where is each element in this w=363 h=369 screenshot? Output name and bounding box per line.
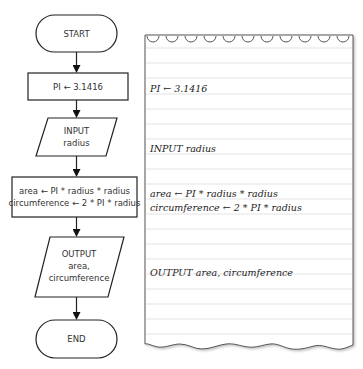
flowchart-and-pseudocode: START PI ← 3.1416 INPUT radius area ← PI… [0,0,363,369]
pseudocode-line-2: INPUT radius [149,143,216,154]
notepad: PI ← 3.1416 INPUT radius area ← PI * rad… [145,35,353,349]
process-label-line1: area ← PI * radius * radius [19,186,131,196]
assign-pi-process: PI ← 3.1416 [28,73,128,100]
pseudocode-line-1: PI ← 3.1416 [149,83,207,94]
input-parallelogram: INPUT radius [36,118,117,156]
end-terminator: END [36,320,117,358]
output-label-line1: OUTPUT [62,249,97,259]
process-label-line2: circumference ← 2 * PI * radius [9,198,141,208]
start-terminator: START [36,15,117,52]
assign-pi-label: PI ← 3.1416 [53,82,103,92]
output-label-line3: circumference [49,273,110,283]
pseudocode-line-4: circumference ← 2 * PI * radius [150,202,302,213]
pseudocode-line-3: area ← PI * radius * radius [150,188,278,199]
calculation-process: area ← PI * radius * radius circumferenc… [9,177,141,217]
flowchart: START PI ← 3.1416 INPUT radius area ← PI… [9,15,141,358]
input-label-line2: radius [63,138,90,148]
output-label-line2: area, [68,261,90,271]
output-parallelogram: OUTPUT area, circumference [35,237,124,297]
start-label: START [63,29,90,39]
input-label-line1: INPUT [64,126,90,136]
end-label: END [67,334,86,344]
pseudocode-line-5: OUTPUT area, circumference [150,267,293,278]
